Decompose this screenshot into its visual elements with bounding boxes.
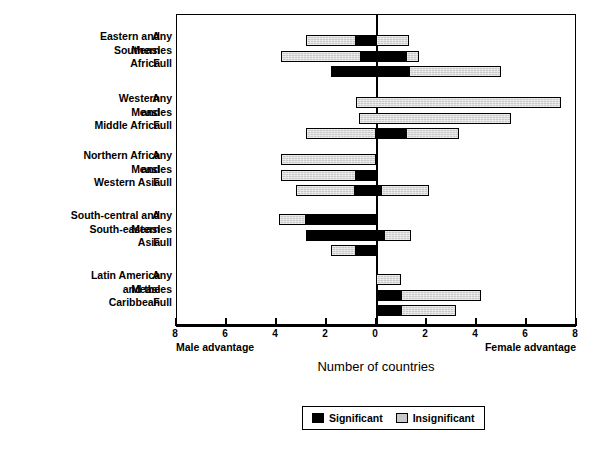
series-label: Full — [110, 57, 172, 71]
x-axis-tick — [325, 318, 327, 326]
bar-segment-significant — [355, 185, 381, 196]
bar-segment-insignificant — [356, 97, 561, 108]
legend-label-significant: Significant — [329, 412, 383, 424]
x-axis-tick-label: 6 — [210, 328, 240, 339]
x-axis-tick-label: 8 — [560, 328, 590, 339]
bar-segment-insignificant — [279, 214, 307, 225]
x-axis-tick-label: 6 — [510, 328, 540, 339]
series-label: Any — [110, 269, 172, 283]
x-axis-tick-label: 0 — [360, 328, 390, 339]
chart-legend: Significant Insignificant — [302, 406, 485, 430]
bar-segment-significant — [331, 66, 409, 77]
bar-segment-insignificant — [359, 113, 512, 124]
series-label: Any — [110, 30, 172, 44]
series-label: Full — [110, 176, 172, 190]
bar-segment-insignificant — [376, 35, 409, 46]
x-axis-tick — [375, 318, 377, 326]
x-axis-tick-label: 2 — [310, 328, 340, 339]
bar-segment-insignificant — [381, 185, 429, 196]
bar-segment-insignificant — [306, 35, 356, 46]
bar-segment-significant — [361, 51, 406, 62]
series-label-group: AnyMeaslesFull — [110, 92, 172, 133]
bar-segment-insignificant — [401, 305, 456, 316]
series-label: Full — [110, 236, 172, 250]
bar-segment-insignificant — [331, 245, 356, 256]
series-label: Any — [110, 209, 172, 223]
x-axis-tick-label: 8 — [160, 328, 190, 339]
bar-segment-insignificant — [376, 274, 401, 285]
x-axis-tick — [575, 318, 577, 326]
series-label: Measles — [110, 44, 172, 58]
bar-segment-significant — [306, 230, 384, 241]
bar-segment-significant — [306, 214, 376, 225]
female-advantage-label: Female advantage — [485, 341, 576, 353]
bar-segment-insignificant — [384, 230, 412, 241]
legend-swatch-significant — [312, 413, 324, 423]
series-label: Measles — [110, 163, 172, 177]
x-axis-tick — [475, 318, 477, 326]
bar-segment-significant — [376, 290, 401, 301]
series-label-group: AnyMeaslesFull — [110, 30, 172, 71]
x-axis-tick-label: 2 — [410, 328, 440, 339]
bar-segment-insignificant — [296, 185, 355, 196]
bar-segment-significant — [356, 170, 376, 181]
series-label: Measles — [110, 283, 172, 297]
x-axis-tick — [525, 318, 527, 326]
bar-segment-insignificant — [281, 154, 376, 165]
plot-area — [176, 14, 576, 325]
bar-segment-significant — [356, 245, 376, 256]
legend-label-insignificant: Insignificant — [413, 412, 475, 424]
x-axis-tick — [225, 318, 227, 326]
series-label-group: AnyMeaslesFull — [110, 269, 172, 310]
bar-segment-insignificant — [406, 51, 419, 62]
x-axis-tick-label: 4 — [460, 328, 490, 339]
x-axis-tick — [175, 318, 177, 326]
bar-segment-insignificant — [406, 128, 459, 139]
series-label: Any — [110, 92, 172, 106]
series-label: Measles — [110, 223, 172, 237]
bar-segment-significant — [356, 35, 376, 46]
series-label: Measles — [110, 106, 172, 120]
x-axis-tick — [425, 318, 427, 326]
bar-segment-insignificant — [281, 170, 356, 181]
x-axis-tick — [275, 318, 277, 326]
bar-segment-insignificant — [306, 128, 376, 139]
category-label-column: Eastern andSouthernAfricaAnyMeaslesFullW… — [0, 0, 176, 320]
male-advantage-label: Male advantage — [176, 341, 254, 353]
series-label: Full — [110, 119, 172, 133]
bar-segment-insignificant — [401, 290, 481, 301]
bar-segment-insignificant — [409, 66, 502, 77]
x-axis-tick-label: 4 — [260, 328, 290, 339]
chart-figure: Eastern andSouthernAfricaAnyMeaslesFullW… — [0, 0, 605, 456]
series-label: Any — [110, 149, 172, 163]
series-label: Full — [110, 296, 172, 310]
legend-item-significant: Significant — [312, 412, 383, 424]
bar-segment-significant — [376, 128, 406, 139]
legend-swatch-insignificant — [396, 413, 408, 423]
legend-item-insignificant: Insignificant — [396, 412, 475, 424]
series-label-group: AnyMeaslesFull — [110, 209, 172, 250]
bar-segment-insignificant — [281, 51, 361, 62]
x-axis-title: Number of countries — [176, 359, 576, 374]
bar-segment-significant — [376, 305, 401, 316]
series-label-group: AnyMeaslesFull — [110, 149, 172, 190]
